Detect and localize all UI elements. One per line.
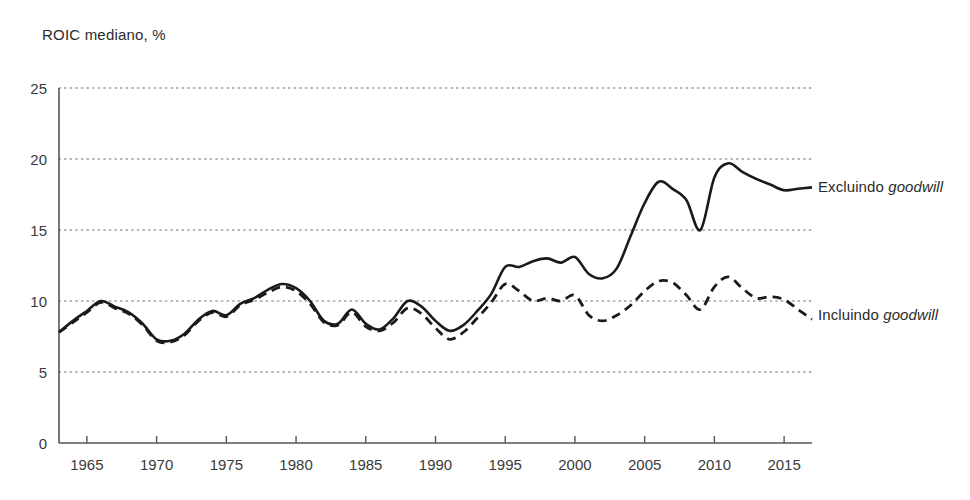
x-tick-label-1965: 1965 xyxy=(70,456,103,473)
y-tick-label-10: 10 xyxy=(30,293,47,310)
x-tick-label-1975: 1975 xyxy=(210,456,243,473)
x-tick-label-2010: 2010 xyxy=(698,456,731,473)
series-line-excluding-goodwill xyxy=(59,163,812,341)
y-tick-labels-group: 0510152025 xyxy=(30,80,47,452)
axes-group xyxy=(59,88,812,443)
y-tick-label-15: 15 xyxy=(30,222,47,239)
data-series-group xyxy=(59,163,812,343)
legend-excluding-emphasis: goodwill xyxy=(888,178,943,195)
x-tick-label-1980: 1980 xyxy=(279,456,312,473)
y-tick-label-5: 5 xyxy=(39,364,47,381)
legend-including-text: Incluindo xyxy=(818,306,883,323)
legend-including-emphasis: goodwill xyxy=(883,306,938,323)
legend-excluding-text: Excluindo xyxy=(818,178,888,195)
x-tick-label-1995: 1995 xyxy=(489,456,522,473)
x-tick-label-2015: 2015 xyxy=(767,456,800,473)
chart-plot-area: 0510152025 19651970197519801985199019952… xyxy=(0,0,970,500)
x-tick-labels-group: 1965197019751980198519901995200020052010… xyxy=(70,456,801,473)
y-tick-label-20: 20 xyxy=(30,151,47,168)
x-tick-label-2000: 2000 xyxy=(558,456,591,473)
x-tick-label-1970: 1970 xyxy=(140,456,173,473)
y-tick-label-25: 25 xyxy=(30,80,47,97)
series-line-including-goodwill xyxy=(59,277,812,343)
chart-container: ROIC mediano, % 0510152025 1965197019751… xyxy=(0,0,970,500)
x-tick-label-1990: 1990 xyxy=(419,456,452,473)
x-tick-label-1985: 1985 xyxy=(349,456,382,473)
legend-label-including-goodwill: Incluindo goodwill xyxy=(818,306,938,323)
legend-label-excluding-goodwill: Excluindo goodwill xyxy=(818,178,943,195)
y-tick-label-0: 0 xyxy=(39,435,47,452)
x-tick-label-2005: 2005 xyxy=(628,456,661,473)
x-tick-marks-group xyxy=(87,436,784,443)
